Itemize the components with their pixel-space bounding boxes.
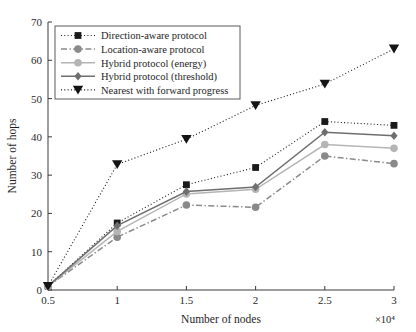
series-line-3 xyxy=(48,132,394,286)
x-tick-label-2: 2 xyxy=(253,294,259,306)
x-tick-label-2.5: 2.5 xyxy=(318,294,332,306)
x-tick-label-3: 3 xyxy=(391,294,397,306)
series-0-point-2 xyxy=(183,181,190,188)
y-tick-label-40: 40 xyxy=(31,131,43,143)
chart-container: 0102030405060700.511.522.53Number of nod… xyxy=(0,0,416,332)
series-2-point-5 xyxy=(390,145,398,153)
series-0-point-4 xyxy=(321,118,328,125)
series-4-point-3 xyxy=(250,101,260,110)
series-3-point-5 xyxy=(390,131,397,140)
y-tick-label-50: 50 xyxy=(31,93,43,105)
x-tick-label-1.5: 1.5 xyxy=(180,294,194,306)
legend-marker-0 xyxy=(75,32,82,39)
series-3-point-4 xyxy=(321,128,328,137)
series-1-point-4 xyxy=(321,152,329,160)
legend-marker-1 xyxy=(74,45,82,53)
series-4-point-2 xyxy=(181,135,191,144)
y-tick-label-10: 10 xyxy=(31,246,43,258)
series-line-1 xyxy=(48,156,394,286)
legend-label-1: Location-aware protocol xyxy=(101,44,205,55)
series-4-point-5 xyxy=(389,45,399,54)
y-tick-label-70: 70 xyxy=(31,16,43,28)
y-tick-label-20: 20 xyxy=(31,207,43,219)
series-1-point-2 xyxy=(183,201,191,209)
y-axis-title: Number of hops xyxy=(6,118,19,193)
legend-label-3: Hybrid protocol (threshold) xyxy=(101,71,218,83)
series-0-point-5 xyxy=(391,122,398,129)
series-line-0 xyxy=(48,122,394,287)
number-of-hops-line-chart: 0102030405060700.511.522.53Number of nod… xyxy=(0,0,416,332)
series-4-point-1 xyxy=(112,160,122,169)
x-tick-label-1: 1 xyxy=(114,294,120,306)
series-1-point-3 xyxy=(252,204,260,212)
y-tick-label-60: 60 xyxy=(31,54,43,66)
series-2-point-4 xyxy=(321,141,329,149)
series-1-point-5 xyxy=(390,160,398,168)
series-0-point-3 xyxy=(252,164,259,171)
x-tick-label-0.5: 0.5 xyxy=(41,294,55,306)
x-axis-exponent-label: ×10⁴ xyxy=(375,314,395,325)
legend-label-0: Direction-aware protocol xyxy=(101,30,207,41)
series-line-2 xyxy=(48,145,394,287)
x-axis-title: Number of nodes xyxy=(181,313,261,325)
legend-marker-2 xyxy=(74,59,82,67)
y-tick-label-30: 30 xyxy=(31,169,43,181)
legend-label-2: Hybrid protocol (energy) xyxy=(101,58,207,70)
series-4-point-4 xyxy=(320,80,330,89)
legend-label-4: Nearest with forward progress xyxy=(101,85,228,96)
